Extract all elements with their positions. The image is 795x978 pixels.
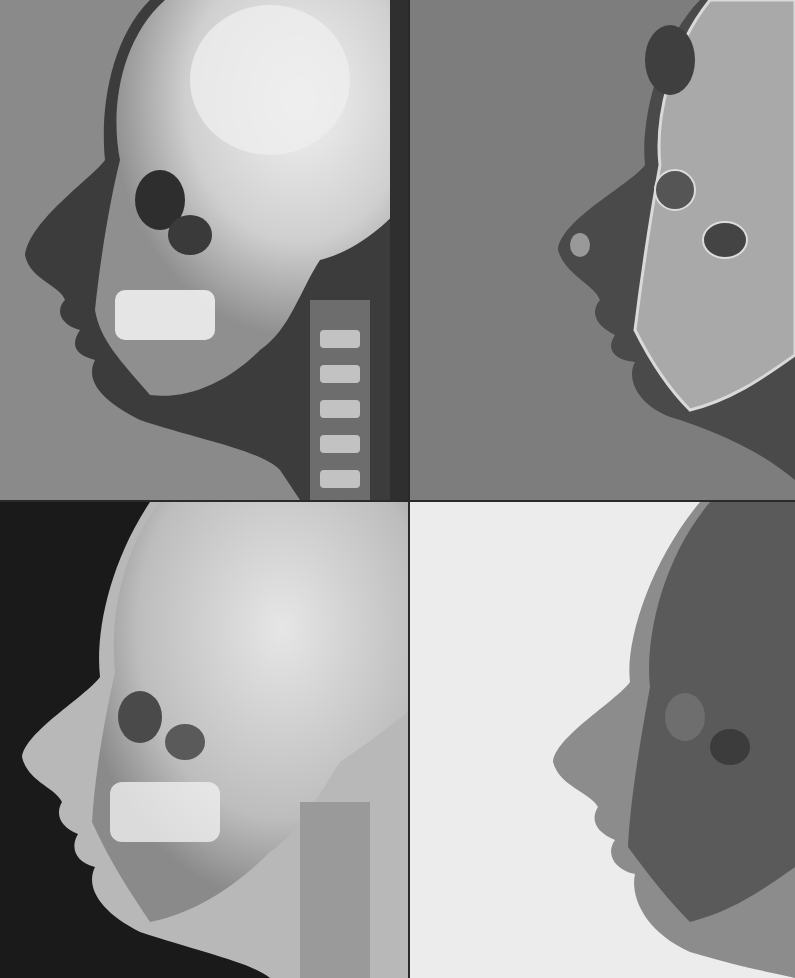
skull-profile-image [410,502,795,978]
panel-contour-enhanced [410,0,795,500]
panel-standard-radiograph [0,0,408,500]
skull-profile-image [0,0,408,500]
radiograph-figure-grid [0,0,795,978]
panel-bright-on-black [0,502,408,978]
skull-profile-image [0,502,408,978]
skull-profile-image [410,0,795,500]
panel-inverted-on-white [410,502,795,978]
